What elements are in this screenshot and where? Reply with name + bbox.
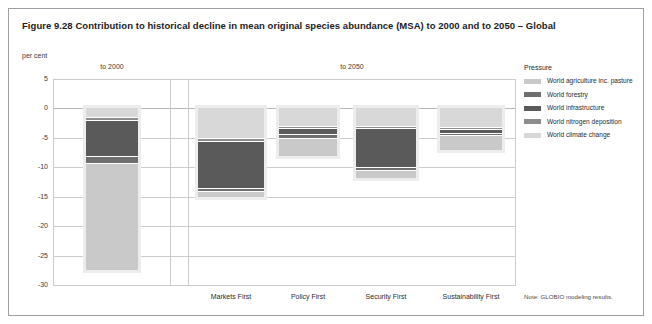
bar-segment-world-climate-change[interactable] [86, 108, 138, 117]
legend-item[interactable]: World climate change [524, 131, 644, 139]
y-axis-unit-label: per cent [22, 52, 47, 59]
bar-segment-world-climate-change[interactable] [356, 108, 416, 126]
legend-item[interactable]: World forestry [524, 91, 644, 99]
legend-swatch-icon [524, 133, 541, 138]
x-label-markets-first: Markets First [211, 293, 251, 300]
legend-swatch-icon [524, 106, 541, 111]
bar-sustainability-first[interactable] [440, 108, 502, 149]
gridline--30 [53, 285, 516, 286]
legend-item-label: World climate change [547, 131, 610, 139]
legend-item-label: World forestry [547, 91, 588, 99]
legend-item-label: World nitrogen deposition [547, 118, 622, 126]
y-axis-tick-labels: 50-5-10-15-20-25-30 [16, 79, 48, 285]
y-tick--5: -5 [42, 134, 48, 141]
y-tick-5: 5 [44, 75, 48, 82]
bar-segment-world-infrastructure[interactable] [356, 128, 416, 166]
bar-segment-world-infrastructure[interactable] [198, 141, 264, 188]
figure-container: Figure 9.28 Contribution to historical d… [0, 0, 652, 324]
legend-item[interactable]: World nitrogen deposition [524, 118, 644, 126]
bar-segment-world-agriculture-inc-pasture[interactable] [279, 138, 337, 156]
legend-item-label: World infrastructure [547, 104, 604, 112]
bar-segment-world-agriculture-inc-pasture[interactable] [440, 135, 502, 149]
y-tick-0: 0 [44, 104, 48, 111]
legend-item[interactable]: World agriculture inc. pasture [524, 77, 644, 85]
x-label-policy-first: Policy First [291, 293, 325, 300]
legend: Pressure World agriculture inc. pastureW… [524, 64, 644, 145]
x-label-security-first: Security First [366, 293, 407, 300]
bar-segment-world-agriculture-inc-pasture[interactable] [86, 163, 138, 271]
bar-segment-world-agriculture-inc-pasture[interactable] [198, 191, 264, 197]
legend-item-label: World agriculture inc. pasture [547, 77, 633, 85]
y-tick--25: -25 [38, 252, 48, 259]
x-label-sustainability-first: Sustainability First [443, 293, 500, 300]
panel-header-2: to 2050 [340, 63, 363, 70]
gridline-5 [53, 79, 516, 80]
legend-swatch-icon [524, 79, 541, 84]
y-tick--30: -30 [38, 281, 48, 288]
page-title: Figure 9.28 Contribution to historical d… [22, 20, 556, 31]
legend-item[interactable]: World infrastructure [524, 104, 644, 112]
bar-segment-world-climate-change[interactable] [279, 108, 337, 126]
bar-security-first[interactable] [356, 108, 416, 177]
legend-swatch-icon [524, 92, 541, 97]
bar-segment-world-climate-change[interactable] [440, 108, 502, 127]
bar-segment-world-climate-change[interactable] [198, 108, 264, 137]
plot-area: to 2000to 2050Markets FirstPolicy FirstS… [53, 79, 516, 285]
bar-markets-first[interactable] [198, 108, 264, 197]
bar-policy-first[interactable] [279, 108, 337, 155]
figure-note: Note: GLOBIO modeling results. [524, 293, 613, 300]
y-tick--10: -10 [38, 163, 48, 170]
y-tick--20: -20 [38, 222, 48, 229]
bar-segment-world-infrastructure[interactable] [86, 120, 138, 156]
legend-title: Pressure [524, 64, 644, 71]
legend-swatch-icon [524, 119, 541, 124]
bar-segment-world-agriculture-inc-pasture[interactable] [356, 170, 416, 178]
panel-header-1: to 2000 [100, 63, 123, 70]
bar-to-2000[interactable] [86, 108, 138, 270]
y-tick--15: -15 [38, 193, 48, 200]
